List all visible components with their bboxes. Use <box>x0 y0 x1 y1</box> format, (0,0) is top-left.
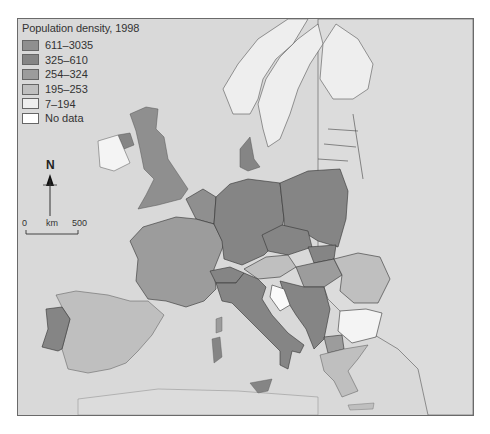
scale-bar-line <box>26 230 78 234</box>
legend-label: No data <box>45 112 84 124</box>
scale-start-label: 0 <box>22 218 27 228</box>
legend-swatch <box>22 98 39 109</box>
legend-item: 325–610 <box>22 53 139 68</box>
scale-end-label: 500 <box>72 218 87 228</box>
region-greece <box>320 345 368 397</box>
region-corsica <box>216 317 222 333</box>
scale-unit-label: km <box>46 218 58 228</box>
legend-label: 325–610 <box>45 54 88 66</box>
north-arrow-and-scale: N 0 km 500 <box>20 158 90 238</box>
legend-item: 195–253 <box>22 82 139 97</box>
legend-item: 7–194 <box>22 96 139 111</box>
legend-label: 195–253 <box>45 83 88 95</box>
legend-swatch <box>22 69 39 80</box>
region-bulgaria <box>338 309 382 343</box>
legend-swatch <box>22 54 39 65</box>
legend-swatch <box>22 113 39 124</box>
region-france <box>130 217 224 307</box>
region-sardinia <box>212 337 222 363</box>
legend-swatch <box>22 40 39 51</box>
legend-item: 254–324 <box>22 67 139 82</box>
legend-title: Population density, 1998 <box>22 22 139 34</box>
region-crete <box>348 403 374 410</box>
region-spain <box>56 291 164 373</box>
legend-label: 611–3035 <box>45 39 93 51</box>
north-africa <box>78 389 318 415</box>
legend-swatch <box>22 84 39 95</box>
legend-item: No data <box>22 111 139 126</box>
region-sicily <box>250 379 272 393</box>
map-legend: Population density, 1998 611–3035 325–61… <box>22 22 139 126</box>
region-denmark <box>240 137 260 171</box>
legend-label: 7–194 <box>45 98 76 110</box>
legend-item: 611–3035 <box>22 38 139 53</box>
legend-label: 254–324 <box>45 68 88 80</box>
